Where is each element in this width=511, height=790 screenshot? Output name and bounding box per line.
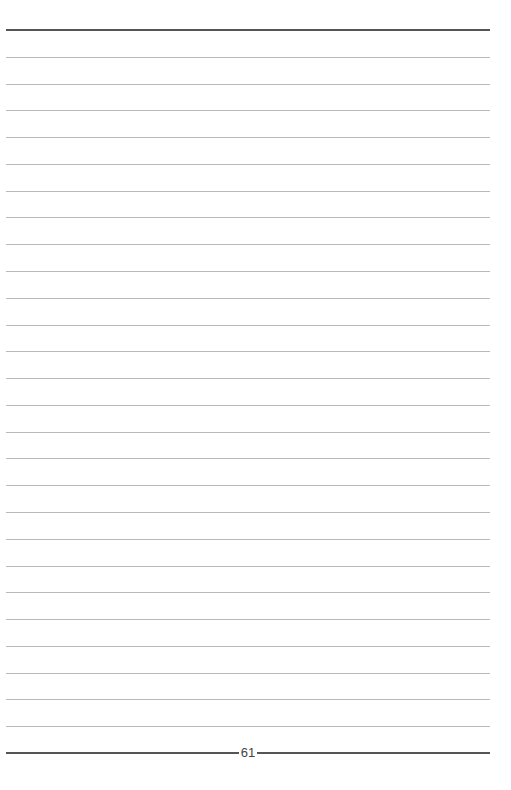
ruled-line [6, 432, 490, 433]
ruled-line [6, 726, 490, 727]
top-border-rule [6, 29, 490, 31]
ruled-line [6, 566, 490, 567]
ruled-line [6, 592, 490, 593]
ruled-line [6, 244, 490, 245]
ruled-line [6, 217, 490, 218]
notebook-page: 61 [0, 0, 511, 790]
ruled-line [6, 539, 490, 540]
ruled-line [6, 378, 490, 379]
footer-rule-right [257, 752, 490, 754]
ruled-line [6, 110, 490, 111]
ruled-line [6, 619, 490, 620]
page-number: 61 [239, 744, 257, 762]
ruled-line [6, 164, 490, 165]
ruled-line [6, 57, 490, 58]
ruled-line [6, 351, 490, 352]
ruled-line [6, 699, 490, 700]
ruled-line [6, 405, 490, 406]
ruled-line [6, 271, 490, 272]
page-footer: 61 [6, 744, 490, 762]
ruled-line [6, 646, 490, 647]
ruled-line [6, 325, 490, 326]
footer-rule-left [6, 752, 239, 754]
ruled-line [6, 191, 490, 192]
ruled-line [6, 298, 490, 299]
ruled-line [6, 458, 490, 459]
ruled-line [6, 84, 490, 85]
ruled-line [6, 673, 490, 674]
ruled-line [6, 137, 490, 138]
ruled-line [6, 485, 490, 486]
ruled-line [6, 512, 490, 513]
